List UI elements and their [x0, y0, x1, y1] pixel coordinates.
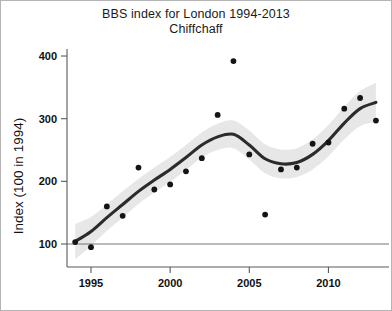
data-point — [183, 168, 189, 174]
data-point — [72, 239, 78, 245]
data-point — [246, 152, 252, 158]
y-axis-ticks: 100200300400 — [39, 50, 67, 250]
chart-plot-area: 100200300400 1995200020052010 Index (100… — [1, 1, 392, 311]
data-point — [357, 95, 363, 101]
x-tick-label: 2010 — [316, 277, 340, 289]
data-point — [326, 140, 332, 146]
data-point — [373, 118, 379, 124]
x-tick-label: 2005 — [237, 277, 261, 289]
data-point — [104, 204, 110, 210]
data-point — [231, 58, 237, 64]
data-point — [136, 165, 142, 171]
data-point — [215, 112, 221, 118]
data-point — [262, 212, 268, 218]
confidence-band — [75, 83, 376, 259]
data-point — [341, 106, 347, 112]
y-tick-label: 300 — [39, 113, 57, 125]
data-point — [278, 167, 284, 173]
y-tick-label: 400 — [39, 50, 57, 62]
x-tick-label: 1995 — [79, 277, 103, 289]
y-tick-label: 200 — [39, 175, 57, 187]
chart-figure: BBS index for London 1994-2013 Chiffchaf… — [0, 0, 392, 311]
y-axis-title: Index (100 in 1994) — [11, 118, 26, 234]
data-point — [310, 141, 316, 147]
y-tick-label: 100 — [39, 238, 57, 250]
data-point — [151, 187, 157, 193]
data-point — [167, 182, 173, 188]
x-tick-label: 2000 — [158, 277, 182, 289]
data-point — [120, 213, 126, 219]
data-point — [294, 165, 300, 171]
chart-axes — [67, 49, 389, 267]
confidence-band-path — [75, 83, 376, 259]
data-point — [199, 155, 205, 161]
data-point — [88, 244, 94, 250]
x-axis-ticks: 1995200020052010 — [79, 267, 341, 289]
